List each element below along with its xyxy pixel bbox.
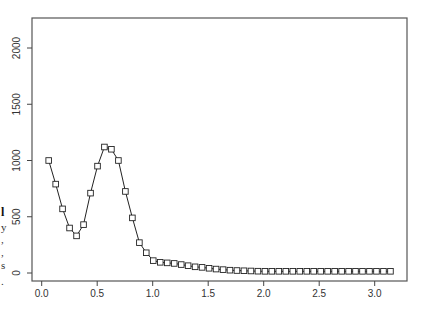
- x-tick-label: 2.0: [257, 288, 271, 299]
- y-tick-label: 0: [11, 270, 22, 276]
- square-marker: [374, 269, 380, 275]
- square-marker: [74, 233, 80, 239]
- square-marker: [157, 260, 163, 266]
- square-marker: [213, 266, 219, 272]
- plot-frame: [32, 18, 407, 281]
- square-marker: [311, 269, 317, 275]
- square-marker: [353, 269, 359, 275]
- square-marker: [102, 144, 108, 150]
- x-tick-label: 2.5: [312, 288, 326, 299]
- square-marker: [248, 268, 254, 274]
- square-marker: [123, 189, 129, 195]
- square-marker: [150, 258, 156, 264]
- square-marker: [171, 261, 177, 267]
- square-marker: [297, 269, 303, 275]
- square-marker: [304, 269, 310, 275]
- square-marker: [283, 269, 289, 275]
- square-marker: [255, 268, 261, 274]
- square-marker: [88, 190, 94, 196]
- square-marker: [241, 268, 247, 274]
- square-marker: [199, 265, 205, 271]
- square-marker: [53, 181, 59, 187]
- square-marker: [388, 269, 394, 275]
- square-marker: [227, 267, 233, 273]
- square-marker: [262, 269, 268, 275]
- square-marker: [192, 264, 198, 270]
- square-marker: [381, 269, 387, 275]
- square-marker: [220, 267, 226, 273]
- y-axis: 0500100015002000: [11, 36, 32, 275]
- square-marker: [367, 269, 373, 275]
- square-marker: [360, 269, 366, 275]
- square-marker: [276, 269, 282, 275]
- square-marker: [234, 268, 240, 274]
- x-axis: 0.00.51.01.52.02.53.0: [35, 281, 382, 299]
- square-marker: [185, 263, 191, 269]
- square-marker: [81, 222, 87, 228]
- y-tick-label: 1500: [11, 93, 22, 116]
- square-marker: [164, 260, 170, 266]
- square-marker: [109, 146, 115, 152]
- square-marker: [206, 265, 212, 271]
- square-marker: [60, 206, 66, 212]
- square-marker: [178, 262, 184, 268]
- square-marker: [290, 269, 296, 275]
- square-marker: [143, 250, 149, 256]
- square-marker: [95, 163, 101, 169]
- x-tick-label: 0.5: [90, 288, 104, 299]
- square-marker: [339, 269, 345, 275]
- line-chart: 0500100015002000 0.00.51.01.52.02.53.0: [0, 0, 428, 311]
- square-marker: [116, 158, 122, 164]
- square-marker: [332, 269, 338, 275]
- square-marker: [346, 269, 352, 275]
- square-marker: [318, 269, 324, 275]
- square-marker: [325, 269, 331, 275]
- square-marker: [137, 240, 143, 246]
- x-tick-label: 1.0: [146, 288, 160, 299]
- square-marker: [46, 158, 52, 164]
- y-tick-label: 500: [11, 208, 22, 225]
- y-tick-label: 1000: [11, 149, 22, 172]
- data-series: [46, 144, 393, 274]
- y-tick-label: 2000: [11, 36, 22, 59]
- square-marker: [67, 225, 73, 231]
- x-tick-label: 1.5: [201, 288, 215, 299]
- x-tick-label: 3.0: [368, 288, 382, 299]
- square-marker: [269, 269, 275, 275]
- square-marker: [130, 215, 136, 221]
- x-tick-label: 0.0: [35, 288, 49, 299]
